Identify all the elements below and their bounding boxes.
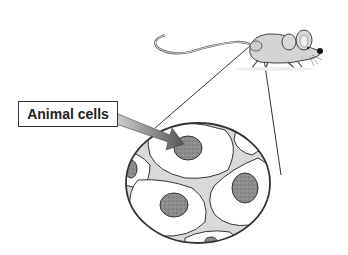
diagram-svg	[0, 0, 348, 255]
magnified-cells	[115, 118, 276, 252]
magnify-line-left	[155, 45, 251, 128]
diagram-canvas: Animal cells	[0, 0, 348, 255]
animal-cells-label: Animal cells	[18, 101, 118, 127]
mouse-illustration	[155, 30, 323, 71]
